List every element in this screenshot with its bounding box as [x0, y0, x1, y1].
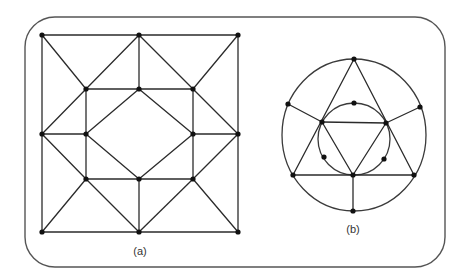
graph-a-vertex-dot [136, 229, 141, 234]
graph-a-edge [86, 35, 139, 89]
graph-a-vertex-dot [39, 131, 44, 136]
graph-a-edge [139, 89, 193, 134]
graph-a-vertex-dot [190, 131, 195, 136]
graph-b-vertex-dot [290, 172, 295, 177]
graph-a: (a) [39, 32, 240, 257]
graph-b-vertex-dot [285, 101, 290, 106]
graph-a-vertex-dot [235, 32, 240, 37]
graph-b-edge [386, 107, 420, 123]
graph-b-vertex-dot [350, 172, 355, 177]
graph-b-edge [288, 104, 322, 122]
graph-b-vertex-dot [411, 172, 416, 177]
inner-circle [318, 103, 390, 175]
graph-a-vertex-dot [136, 176, 141, 181]
graph-b-vertex-dot [351, 100, 356, 105]
graph-b-vertex-dot [319, 119, 324, 124]
graph-a-vertex-dot [83, 131, 88, 136]
graph-b-vertex-dot [417, 104, 422, 109]
graph-a-vertex-dot [136, 86, 141, 91]
graph-a-vertex-dot [83, 86, 88, 91]
graph-b-edge [322, 122, 386, 123]
graph-a-edge [86, 89, 139, 134]
graph-b-label: (b) [346, 223, 359, 235]
graph-a-edge [42, 35, 86, 89]
graph-b-vertex-dot [351, 56, 356, 61]
graph-a-edge [42, 134, 86, 179]
graph-b-vertex-dot [321, 154, 326, 159]
graph-a-edge [193, 89, 238, 134]
graph-b: (b) [282, 56, 426, 235]
graph-b-vertex-dot [381, 156, 386, 161]
graph-a-edge [139, 35, 193, 89]
graph-a-vertex-dot [235, 131, 240, 136]
graph-a-edge [193, 35, 238, 89]
graph-a-edge [42, 179, 86, 232]
graph-b-vertex-dot [350, 208, 355, 213]
graph-a-edge [86, 179, 139, 232]
graph-a-vertex-dot [136, 32, 141, 37]
graph-b-vertex-dot [383, 120, 388, 125]
graph-b-edge [322, 122, 353, 175]
graph-a-label: (a) [133, 245, 146, 257]
outer-circle [282, 59, 426, 211]
graph-a-edge [193, 134, 238, 179]
graph-a-vertex-dot [235, 229, 240, 234]
figure-canvas: (a) (b) [0, 0, 470, 280]
graph-b-edges [288, 59, 420, 211]
graph-a-edges [42, 35, 238, 232]
graph-a-edge [139, 134, 193, 179]
graph-a-edge [139, 179, 193, 232]
graph-a-edge [193, 179, 238, 232]
graph-a-vertex-dot [39, 229, 44, 234]
graph-a-vertex-dot [190, 176, 195, 181]
graph-a-vertex-dot [83, 176, 88, 181]
graph-a-vertex-dot [190, 86, 195, 91]
graph-b-vertices [285, 56, 422, 213]
rounded-frame [25, 17, 445, 267]
graph-a-vertex-dot [39, 32, 44, 37]
graph-a-edge [42, 89, 86, 134]
graph-a-edge [86, 134, 139, 179]
graph-b-edge [353, 123, 386, 175]
